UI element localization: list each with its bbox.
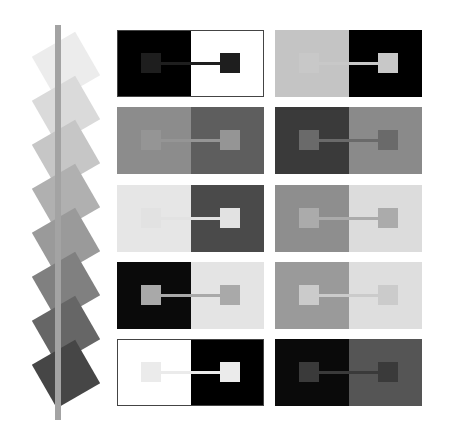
contrast-panel	[275, 339, 422, 406]
contrast-panel	[275, 107, 422, 174]
test-square-left	[141, 53, 161, 73]
test-square-right	[220, 130, 240, 150]
test-square-right	[220, 285, 240, 305]
contrast-panel	[117, 185, 264, 252]
test-square-left	[299, 285, 319, 305]
connector-bar	[319, 217, 378, 220]
connector-bar	[161, 217, 220, 220]
test-square-left	[299, 362, 319, 382]
test-square-left	[141, 285, 161, 305]
connector-bar	[161, 139, 220, 142]
contrast-panel	[117, 339, 264, 406]
connector-bar	[161, 62, 220, 65]
connector-bar	[319, 294, 378, 297]
test-square-right	[378, 285, 398, 305]
test-square-right	[378, 130, 398, 150]
connector-bar	[319, 139, 378, 142]
contrast-panel	[275, 30, 422, 97]
contrast-panel	[117, 30, 264, 97]
test-square-right	[378, 208, 398, 228]
rotated-gray-tile	[32, 340, 100, 408]
connector-bar	[319, 62, 378, 65]
test-square-left	[141, 362, 161, 382]
test-square-left	[141, 130, 161, 150]
contrast-panel	[117, 107, 264, 174]
test-square-right	[220, 208, 240, 228]
test-square-right	[378, 362, 398, 382]
test-square-right	[220, 362, 240, 382]
test-square-right	[220, 53, 240, 73]
connector-bar	[319, 371, 378, 374]
contrast-panel	[117, 262, 264, 329]
test-square-left	[299, 208, 319, 228]
contrast-panel	[275, 185, 422, 252]
test-square-left	[299, 53, 319, 73]
test-square-left	[299, 130, 319, 150]
test-square-left	[141, 208, 161, 228]
contrast-panel	[275, 262, 422, 329]
connector-bar	[161, 294, 220, 297]
staircase-illusion	[0, 0, 110, 433]
test-square-right	[378, 53, 398, 73]
connector-bar	[161, 371, 220, 374]
vertical-gray-bar	[55, 25, 61, 420]
